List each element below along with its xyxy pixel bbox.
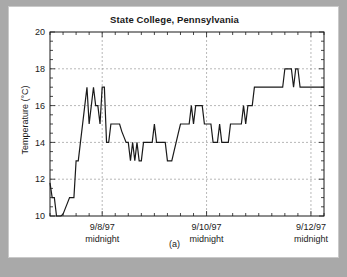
temperature-line-chart: 101214161820 9/8/97midnight9/10/97midnig… [9,7,340,259]
figure-panel: State College, Pennsylvania Temperature … [8,6,339,258]
y-tick-label: 18 [35,64,45,74]
y-tick-label: 20 [35,27,45,37]
x-tick-label: 9/10/97 [192,222,222,232]
figure-caption: (a) [9,239,340,249]
y-tick-label: 12 [35,174,45,184]
x-tick-label: 9/12/97 [296,222,326,232]
x-tick-label: 9/8/97 [90,222,115,232]
y-tick-label: 10 [35,211,45,221]
y-tick-labels: 101214161820 [35,27,45,221]
y-tick-label: 16 [35,101,45,111]
y-tick-label: 14 [35,138,45,148]
